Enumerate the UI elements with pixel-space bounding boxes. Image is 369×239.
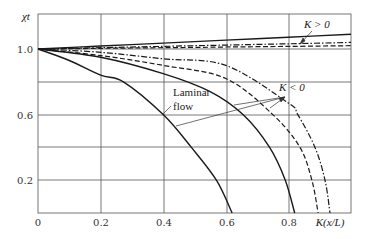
curve-k-0-solid (38, 49, 295, 213)
curve-k-0-dash-dot (38, 49, 330, 213)
annotation-k-positive: K > 0 (303, 18, 330, 30)
y-tick-0.2: 0.2 (17, 175, 33, 186)
annotation-flow: flow (173, 100, 193, 112)
x-tick-0.6: 0.6 (219, 217, 235, 228)
x-tick-0.8: 0.8 (281, 217, 297, 228)
y-tick-1.0: 1.0 (17, 44, 33, 55)
x-axis-label: K(x/L) (315, 216, 345, 229)
k-positive-arrow (300, 31, 312, 44)
data-series (38, 34, 351, 213)
annotation-laminar: Laminar (173, 86, 211, 98)
x-tick-0.2: 0.2 (93, 217, 109, 228)
x-tick-0: 0 (35, 217, 41, 228)
y-axis-label: χt (21, 10, 31, 22)
curve-laminar-flow (38, 49, 232, 213)
x-tick-0.4: 0.4 (156, 217, 172, 228)
y-tick-0.6: 0.6 (17, 110, 33, 121)
chart-figure: 1.0 0.6 0.2 0 0.2 0.4 0.6 0.8 K(x/L) χt … (0, 0, 369, 239)
annotation-k-negative: K < 0 (278, 81, 305, 93)
